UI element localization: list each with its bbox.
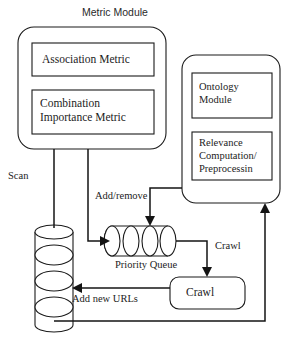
url-repository-disk-3 — [35, 271, 73, 291]
ontology-module-label: Ontology Module — [199, 80, 271, 106]
priority-queue-label: Priority Queue — [115, 259, 177, 271]
edge-module-to-queue-arrowhead — [145, 216, 155, 226]
edge-label-crawl: Crawl — [215, 240, 241, 252]
combination-importance-metric-label: Combination Importance Metric — [40, 96, 152, 125]
edge-label-scan: Scan — [8, 170, 28, 182]
edge-label-add-remove: Add/remove — [95, 190, 148, 202]
edge-crawl-feedback-arrowhead — [260, 203, 270, 213]
edge-queue-to-crawl-arrowhead — [202, 267, 212, 277]
flow-diagram: Metric Module Association Metric Combina… — [0, 0, 285, 339]
priority-queue-cell-3 — [142, 226, 158, 256]
association-metric-label: Association Metric — [42, 52, 152, 66]
crawl-box-label: Crawl — [186, 286, 214, 300]
edge-label-add-new-urls: Add new URLs — [72, 293, 138, 305]
edge-module-to-queue — [150, 188, 182, 216]
url-repository-disk-2 — [35, 245, 73, 265]
priority-queue-cell-2 — [123, 226, 139, 256]
relevance-computation-label: Relevance Computation/ Preprocessin — [199, 136, 273, 175]
url-repository-bottom-cap — [35, 325, 73, 332]
priority-queue-cell-4 — [160, 226, 176, 256]
edge-queue-to-crawl — [176, 241, 207, 267]
url-repository-disk-4 — [35, 297, 73, 317]
page-title: Metric Module — [82, 6, 148, 18]
